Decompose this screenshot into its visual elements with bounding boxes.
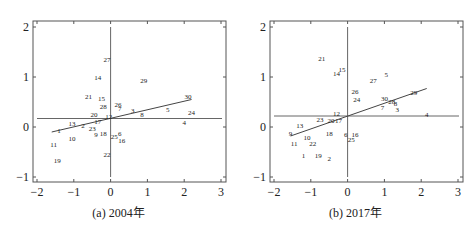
x-tick-label: −2 (31, 185, 44, 199)
scatter-plot-2004: −2−10123−1012123456789101112131415161718… (0, 0, 237, 229)
point-label: 27 (370, 77, 378, 85)
point-label: 26 (351, 88, 359, 96)
chart-panel-2017: −2−10123−1012123456789101112131415161718… (237, 0, 474, 229)
point-label: 26 (114, 101, 122, 109)
point-label: 5 (166, 106, 170, 114)
point-label: 15 (339, 66, 347, 74)
point-label: 22 (309, 140, 317, 148)
point-label: 25 (111, 133, 119, 141)
point-label: 11 (50, 141, 57, 149)
point-label: 30 (184, 93, 192, 101)
x-tick-label: 1 (144, 185, 150, 199)
x-tick-label: 2 (418, 185, 424, 199)
y-tick-label: 2 (23, 20, 29, 34)
plot-frame (270, 21, 463, 182)
point-label: 13 (296, 122, 304, 130)
x-tick-label: 2 (181, 185, 187, 199)
y-tick-label: 1 (260, 70, 266, 84)
x-tick-label: 1 (381, 185, 387, 199)
point-label: 19 (54, 157, 62, 165)
chart-panel-2004: −2−10123−1012123456789101112131415161718… (0, 0, 237, 229)
point-label: 16 (118, 137, 126, 145)
point-label: 18 (326, 130, 334, 138)
point-label: 15 (98, 95, 106, 103)
point-label: 18 (100, 130, 108, 138)
point-label: 1 (57, 127, 61, 135)
y-tick-label: 0 (260, 120, 266, 134)
point-label: 29 (140, 77, 148, 85)
point-label: 19 (315, 152, 323, 160)
x-tick-label: −1 (67, 185, 80, 199)
point-label: 30 (381, 95, 389, 103)
point-label: 23 (317, 116, 325, 124)
y-tick-label: 1 (23, 70, 29, 84)
point-label: 7 (381, 104, 385, 112)
point-label: 9 (289, 130, 293, 138)
point-label: 13 (68, 120, 76, 128)
point-label: 24 (353, 96, 361, 104)
point-label: 23 (89, 125, 97, 133)
point-label: 21 (318, 55, 326, 63)
point-label: 1 (302, 152, 306, 160)
x-tick-label: −1 (304, 185, 317, 199)
plot-frame (33, 21, 226, 182)
y-tick-label: 2 (260, 20, 266, 34)
point-label: 3 (131, 107, 135, 115)
point-label: 2 (327, 155, 331, 163)
point-label: 27 (103, 56, 111, 64)
x-tick-label: 3 (218, 185, 224, 199)
chart-caption-2004: (a) 2004年 (0, 203, 237, 221)
y-tick-label: −1 (16, 170, 29, 184)
point-label: 20 (91, 111, 99, 119)
point-label: 2 (81, 122, 85, 130)
point-label: 22 (103, 151, 111, 159)
point-label: 24 (188, 109, 196, 117)
x-tick-label: 3 (455, 185, 461, 199)
point-label: 4 (425, 111, 429, 119)
point-label: 12 (105, 113, 113, 121)
point-label: 29 (410, 89, 418, 97)
point-label: 28 (100, 103, 108, 111)
point-label: 17 (335, 117, 343, 125)
y-tick-label: −1 (253, 170, 266, 184)
point-label: 10 (68, 135, 76, 143)
x-tick-label: −2 (268, 185, 281, 199)
x-tick-label: 0 (345, 185, 351, 199)
point-label: 25 (348, 136, 356, 144)
point-label: 21 (85, 93, 93, 101)
point-label: 11 (291, 140, 298, 148)
point-label: 5 (384, 71, 388, 79)
point-label: 28 (388, 98, 396, 106)
chart-caption-2017: (b) 2017年 (237, 203, 474, 221)
point-label: 8 (140, 111, 144, 119)
y-tick-label: 0 (23, 120, 29, 134)
x-tick-label: 0 (108, 185, 114, 199)
point-label: 14 (94, 74, 102, 82)
point-label: 20 (328, 117, 336, 125)
scatter-plot-2017: −2−10123−1012123456789101112131415161718… (237, 0, 474, 229)
point-label: 4 (182, 119, 186, 127)
